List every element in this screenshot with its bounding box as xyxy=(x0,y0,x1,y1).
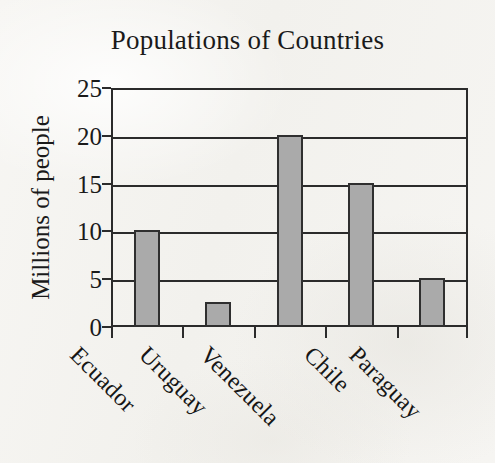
bar-venezuela xyxy=(277,135,303,327)
x-axis-tick-mark xyxy=(254,327,256,338)
y-axis-tick-label: 10 xyxy=(58,219,102,244)
y-axis-tick-mark xyxy=(102,230,111,232)
y-axis-tick-label: 25 xyxy=(58,76,102,101)
x-axis-label-ecuador: Ecuador xyxy=(66,342,141,417)
y-axis-tick-label: 0 xyxy=(58,315,102,340)
bar-chile xyxy=(348,183,374,327)
x-axis-label-paraguay: Paraguay xyxy=(345,342,426,423)
x-axis-tick-mark xyxy=(111,327,113,338)
y-axis-tick-label: 20 xyxy=(58,123,102,148)
y-axis-tick-mark xyxy=(102,278,111,280)
bar-paraguay xyxy=(419,278,445,327)
x-axis-tick-mark xyxy=(397,327,399,338)
bar-chart-figure: Populations of Countries Millions of peo… xyxy=(0,0,495,463)
y-axis-tick-label: 15 xyxy=(58,171,102,196)
y-axis-tick-labels: 0510152025 xyxy=(58,88,102,327)
y-axis-tick-label: 5 xyxy=(58,267,102,292)
x-axis-label-venezuela: Venezuela xyxy=(196,342,284,430)
x-axis-category-labels: EcuadorUruguayVenezuelaChileParaguay xyxy=(111,338,468,458)
bar-series xyxy=(111,88,468,327)
y-axis-tick-mark xyxy=(102,87,111,89)
x-axis-tick-mark xyxy=(325,327,327,338)
y-axis-tick-mark xyxy=(102,135,111,137)
x-axis-label-chile: Chile xyxy=(300,342,354,396)
chart-title: Populations of Countries xyxy=(0,26,495,56)
bar-uruguay xyxy=(205,302,231,327)
bar-ecuador xyxy=(134,230,160,327)
x-axis-tick-mark xyxy=(466,327,468,338)
x-axis-tick-mark xyxy=(182,327,184,338)
y-axis-label: Millions of people xyxy=(24,88,58,327)
y-axis-tick-mark xyxy=(102,183,111,185)
y-axis-tick-mark xyxy=(102,326,111,328)
